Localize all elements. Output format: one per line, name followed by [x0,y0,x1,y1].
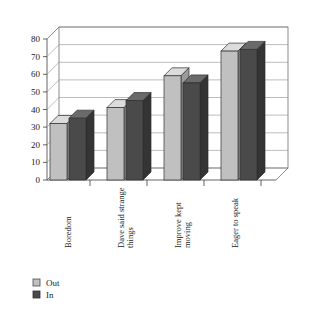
category-label-dave-said-strange-things-line2: things [125,227,135,248]
category-label-improve-kept-moving-line2: moving [182,221,192,248]
bar-group-improve-kept-moving [164,68,208,180]
y-tick-label-10: 10 [31,157,41,167]
bar-in-boredom [69,110,94,180]
chart-canvas: 0 10 20 30 40 50 60 70 80 [0,0,310,309]
legend-item-out[interactable]: Out [33,278,60,288]
chart-legend: Out In [33,278,60,300]
category-label-eager-to-speak: Eager to speak [230,197,240,248]
x-axis-category-labels: Boredom Dave said strange things Improve… [63,187,240,248]
bar-chart: 0 10 20 30 40 50 60 70 80 [0,0,310,309]
y-tick-label-60: 60 [31,69,41,79]
category-label-boredom: Boredom [63,216,73,248]
y-tick-label-70: 70 [31,52,41,62]
legend-label-in: In [46,290,54,300]
bar-group-eager-to-speak [221,41,265,180]
legend-swatch-in [33,291,40,298]
y-tick-label-80: 80 [31,34,41,44]
legend-swatch-out [33,279,40,286]
x-axis-ticks [90,180,261,186]
legend-label-out: Out [46,278,60,288]
bar-in-dave-said-strange-things [126,93,151,180]
legend-item-in[interactable]: In [33,290,54,300]
y-axis-ticks [43,39,47,180]
bar-group-dave-said-strange-things [107,93,151,180]
y-tick-label-40: 40 [31,105,41,115]
bar-in-eager-to-speak [240,41,265,180]
bar-in-improve-kept-moving [183,75,208,180]
y-tick-label-20: 20 [31,140,41,150]
y-tick-label-0: 0 [36,175,41,185]
bar-group-boredom [50,110,94,180]
y-tick-label-30: 30 [31,122,41,132]
y-tick-label-50: 50 [31,87,41,97]
y-axis-labels: 0 10 20 30 40 50 60 70 80 [31,34,41,185]
